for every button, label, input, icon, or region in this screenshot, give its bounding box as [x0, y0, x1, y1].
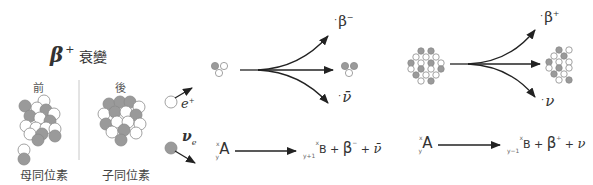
beta-minus-product-antineutrino: ·ν̄ — [338, 88, 351, 106]
diagram-title: β+衰變 — [50, 43, 107, 67]
beta-plus-equation-parent: xyA — [419, 134, 432, 154]
beta-minus-product-beta: ·β− — [334, 12, 354, 30]
title-text: 衰變 — [79, 49, 107, 65]
daughter-isotope-caption: 子同位素 — [102, 166, 150, 183]
beta-minus-equation-products: y+1xB + β− + ν̄ — [303, 139, 381, 159]
beta-plus-equation-products: y−1xB + β+ + ν — [507, 134, 585, 154]
beta-minus-arrows — [240, 36, 333, 103]
beta-plus-reactant — [408, 48, 444, 84]
title-beta-symbol: β — [50, 43, 63, 67]
beta-minus-product-nucleus — [341, 62, 357, 76]
before-label: 前 — [33, 79, 44, 95]
beta-plus-product-nucleus — [546, 47, 572, 83]
emitted-pair — [18, 144, 30, 165]
daughter-nucleus — [98, 96, 146, 146]
parent-nucleus — [19, 95, 61, 146]
after-label: 後 — [115, 79, 126, 95]
positron-label: e+ — [181, 96, 195, 111]
title-charge: + — [65, 43, 74, 56]
beta-minus-equation-parent: xyA — [216, 140, 229, 160]
beta-plus-product-neutrino: ·ν — [541, 92, 554, 110]
parent-isotope-caption: 母同位素 — [20, 166, 68, 183]
beta-plus-arrows — [450, 30, 540, 97]
beta-plus-product-beta: ·β+ — [540, 8, 560, 26]
neutrino-particle — [165, 142, 177, 154]
neutrino-arrow — [175, 151, 195, 163]
neutrino-label: νe — [182, 128, 196, 147]
diagram-graphics — [0, 0, 593, 185]
beta-minus-reactant — [211, 62, 227, 76]
